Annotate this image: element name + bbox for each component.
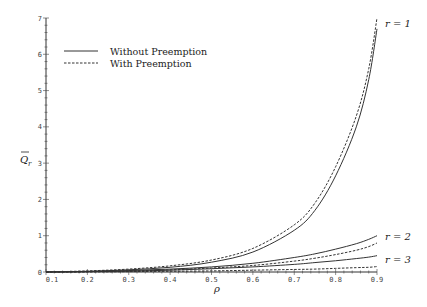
y-tick-label: 6 <box>38 51 42 59</box>
curve-label: r = 2 <box>385 231 411 242</box>
curve-label: r = 3 <box>385 254 411 265</box>
axes: 012345670.10.20.30.40.50.60.70.80.9 <box>38 15 384 285</box>
annotations: r = 1r = 2r = 3 <box>385 18 411 265</box>
y-axis-label: Q r <box>20 152 32 168</box>
y-tick-label: 4 <box>38 123 42 131</box>
x-axis-label: ρ <box>213 283 220 294</box>
legend-label: Without Preemption <box>110 46 207 57</box>
y-tick-label: 2 <box>38 196 42 204</box>
curve-label: r = 1 <box>385 18 411 29</box>
y-tick-label: 0 <box>38 269 42 277</box>
curve-r2-without-preemption <box>46 236 377 272</box>
legend: Without PreemptionWith Preemption <box>64 46 207 69</box>
x-tick-label: 0.2 <box>81 276 94 284</box>
x-tick-label: 0.8 <box>329 276 342 284</box>
curve-r1-with-preemption <box>46 18 377 272</box>
curve-r2-with-preemption <box>46 243 377 272</box>
y-tick-label: 1 <box>38 232 42 240</box>
legend-label: With Preemption <box>110 58 192 69</box>
svg-text:Q: Q <box>20 154 28 165</box>
y-tick-label: 5 <box>38 87 42 95</box>
curves <box>46 18 377 272</box>
x-tick-label: 0.7 <box>288 276 301 284</box>
svg-text:r: r <box>28 160 32 168</box>
x-tick-label: 0.6 <box>247 276 260 284</box>
curve-r1-without-preemption <box>46 29 377 272</box>
y-tick-label: 7 <box>38 15 42 23</box>
x-tick-label: 0.1 <box>46 276 59 284</box>
x-tick-label: 0.3 <box>122 276 135 284</box>
x-tick-label: 0.9 <box>371 276 384 284</box>
chart: 012345670.10.20.30.40.50.60.70.80.9 With… <box>0 0 427 307</box>
y-tick-label: 3 <box>38 160 42 168</box>
x-tick-label: 0.4 <box>164 276 177 284</box>
